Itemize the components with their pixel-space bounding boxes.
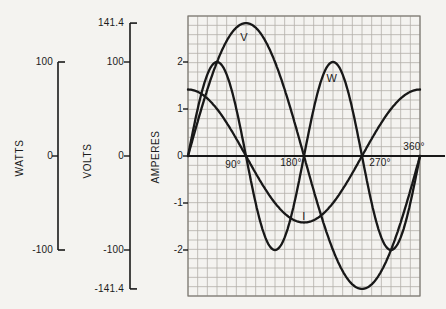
amperes-axis-title: AMPERES: [151, 130, 161, 183]
volts-tick-label-0: 0: [118, 151, 124, 161]
watts-axis-title: WATTS: [15, 140, 25, 177]
power-waveform-figure: WATTS VOLTS AMPERES 1000-100141.41000-10…: [0, 0, 446, 309]
curve-label-I: I: [302, 211, 305, 222]
volts-tick-label--100: -100: [103, 245, 124, 255]
amperes-tick-label-1: 1: [177, 104, 183, 114]
x-tick-label-90: 90°: [225, 160, 241, 170]
amperes-tick-label-0: 0: [177, 151, 183, 161]
volts-tick-label-141.4: 141.4: [98, 18, 124, 28]
watts-tick-label-0: 0: [47, 151, 53, 161]
x-tick-label-180: 180°: [280, 158, 301, 168]
amperes-tick-label--1: -1: [174, 198, 183, 208]
volts-axis-title: VOLTS: [83, 143, 93, 178]
x-tick-label-270: 270°: [369, 158, 390, 168]
watts-tick-label-100: 100: [36, 57, 53, 67]
volts-tick-label--141.4: -141.4: [94, 284, 124, 294]
chart-canvas: [0, 0, 446, 309]
amperes-tick-label-2: 2: [177, 57, 183, 67]
x-tick-label-360: 360°: [403, 142, 424, 152]
amperes-tick-label--2: -2: [174, 245, 183, 255]
curve-label-V: V: [240, 32, 248, 43]
watts-tick-label--100: -100: [32, 245, 53, 255]
curve-label-W: W: [326, 72, 337, 83]
volts-tick-label-100: 100: [107, 57, 124, 67]
